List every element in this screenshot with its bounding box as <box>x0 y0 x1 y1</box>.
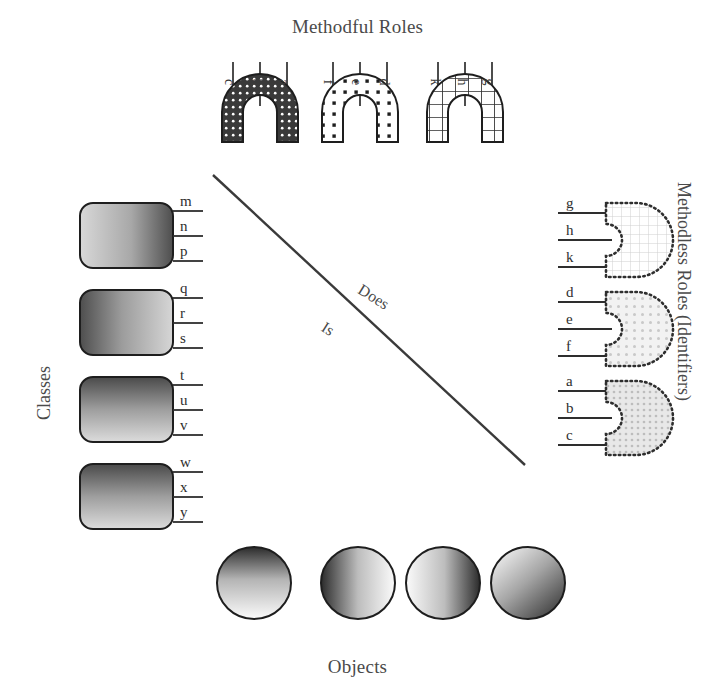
socket-role-label-c: c <box>566 427 573 444</box>
class-role-label-v: v <box>180 417 188 434</box>
class-role-label-y: y <box>180 504 188 521</box>
object-circle-3[interactable] <box>406 547 480 619</box>
leg-label-b: b <box>249 79 265 86</box>
class-role-label-q: q <box>180 280 188 297</box>
methodful-role-2[interactable] <box>322 62 398 142</box>
class-role-label-t: t <box>180 367 184 384</box>
class-role-label-n: n <box>180 218 188 235</box>
leg-label-a: a <box>275 79 291 85</box>
socket-shape-3 <box>606 381 673 455</box>
leg-label-e: e <box>348 79 364 85</box>
leg-label-h: h <box>454 79 470 86</box>
socket-role-label-h: h <box>566 222 574 239</box>
socket-role-label-e: e <box>566 311 573 328</box>
socket-role-label-g: g <box>566 195 574 212</box>
class-role-label-r: r <box>180 305 185 322</box>
object-circle-2[interactable] <box>321 547 395 619</box>
leg-label-c: c <box>221 79 237 85</box>
class-role-label-s: s <box>180 330 186 347</box>
socket-shape-1 <box>606 203 673 277</box>
methodless-role-1[interactable] <box>558 203 673 277</box>
socket-role-label-k: k <box>566 249 574 266</box>
relation-diagonal-line <box>213 175 525 465</box>
object-circle-1[interactable] <box>217 547 291 619</box>
class-role-label-x: x <box>180 479 188 496</box>
methodless-role-3[interactable] <box>558 381 673 455</box>
socket-shape-2 <box>606 292 673 366</box>
diagram-vector-layer <box>0 0 715 696</box>
leg-label-k: k <box>427 79 443 86</box>
class-role-label-w: w <box>180 454 191 471</box>
socket-role-label-d: d <box>566 284 574 301</box>
class-box-1 <box>80 203 173 268</box>
class-role-label-p: p <box>180 243 188 260</box>
diagram-canvas: Methodful Roles Objects Classes Methodle… <box>0 0 715 696</box>
socket-role-label-b: b <box>566 400 574 417</box>
object-circle-4[interactable] <box>491 547 565 619</box>
class-box-2 <box>80 290 173 355</box>
class-role-label-m: m <box>180 193 192 210</box>
leg-label-d: d <box>376 79 392 86</box>
leg-label-g: g <box>481 79 497 86</box>
leg-label-f: f <box>320 80 336 85</box>
class-box-3 <box>80 377 173 442</box>
methodful-role-3[interactable] <box>427 62 503 142</box>
socket-role-label-f: f <box>566 338 571 355</box>
socket-role-label-a: a <box>566 373 573 390</box>
class-box-4 <box>80 464 173 529</box>
methodful-role-1[interactable] <box>222 62 298 142</box>
class-role-label-u: u <box>180 392 188 409</box>
methodless-role-2[interactable] <box>558 292 673 366</box>
